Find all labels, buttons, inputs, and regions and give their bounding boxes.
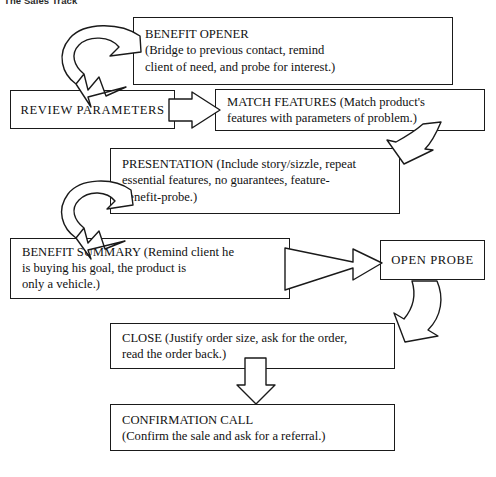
node-review-parameters: REVIEW PARAMETERS <box>10 90 175 129</box>
page-title: The Sales Track <box>4 0 77 6</box>
node-benefit-summary-label: BENEFIT SUMMARY (Remind client he is buy… <box>22 244 283 293</box>
node-benefit-opener: BENEFIT OPENER (Bridge to previous conta… <box>133 17 453 85</box>
node-close: CLOSE (Justify order size, ask for the o… <box>110 323 395 369</box>
node-open-probe-label: OPEN PROBE <box>381 252 484 268</box>
sales-track-diagram: The Sales Track BENEFIT OPENER (Bridge t… <box>0 0 496 477</box>
arrow-benefit-summary-to-open-probe-icon <box>285 248 382 290</box>
node-review-parameters-label: REVIEW PARAMETERS <box>11 101 174 117</box>
node-presentation: PRESENTATION (Include story/sizzle, repe… <box>110 148 400 214</box>
node-benefit-summary: BENEFIT SUMMARY (Remind client he is buy… <box>10 238 290 299</box>
node-match-features: MATCH FEATURES (Match product's features… <box>215 89 485 131</box>
node-benefit-opener-label: BENEFIT OPENER (Bridge to previous conta… <box>145 26 446 75</box>
node-confirmation-call: CONFIRMATION CALL (Confirm the sale and … <box>110 404 395 451</box>
node-close-label: CLOSE (Justify order size, ask for the o… <box>122 330 388 363</box>
node-confirmation-call-label: CONFIRMATION CALL (Confirm the sale and … <box>122 411 388 444</box>
arrow-review-parameters-to-match-features-icon <box>169 92 220 128</box>
node-match-features-label: MATCH FEATURES (Match product's features… <box>227 94 478 127</box>
node-open-probe: OPEN PROBE <box>380 240 485 280</box>
node-presentation-label: PRESENTATION (Include story/sizzle, repe… <box>122 156 393 205</box>
arrow-open-probe-to-close-icon <box>394 281 441 342</box>
